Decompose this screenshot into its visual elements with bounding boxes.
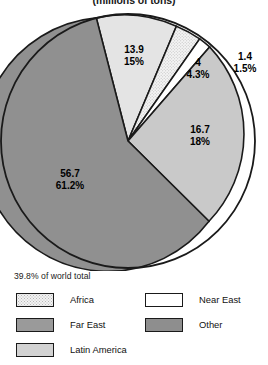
legend-label-latin-america: Latin America	[70, 344, 127, 355]
near-east-swatch-icon	[145, 293, 183, 307]
chart-title: (millions of tons)	[0, 0, 268, 7]
legend-label-other: Other	[199, 319, 222, 330]
slice-label-13-9: 13.9 15%	[107, 44, 161, 67]
slice-label-56-7: 56.7 61.2%	[43, 168, 97, 191]
chart-legend: 39.8% of world total Africa Far East Lat…	[0, 268, 268, 365]
legend-item-africa[interactable]: Africa	[16, 287, 127, 312]
legend-label-near-east: Near East	[199, 294, 241, 305]
latin-america-swatch-icon	[16, 343, 54, 357]
slice-label-16-7: 16.7 18%	[177, 124, 223, 147]
legend-column-left: Africa Far East Latin America	[16, 287, 127, 362]
legend-item-other[interactable]: Other	[145, 312, 241, 337]
far-east-swatch-icon	[16, 318, 54, 332]
legend-item-far-east[interactable]: Far East	[16, 312, 127, 337]
africa-swatch-icon	[16, 293, 54, 307]
legend-column-right: Near East Other	[145, 287, 241, 337]
legend-label-africa: Africa	[70, 294, 94, 305]
legend-item-latin-america[interactable]: Latin America	[16, 337, 127, 362]
legend-label-far-east: Far East	[70, 319, 105, 330]
world-total-note: 39.8% of world total	[14, 271, 90, 281]
slice-label-1-4: 1.4 1.5%	[224, 51, 266, 74]
legend-item-near-east[interactable]: Near East	[145, 287, 241, 312]
other-swatch-icon	[145, 318, 183, 332]
pie-chart: 13.9 15% 4 4.3% 1.4 1.5% 16.7 18% 56.7 6…	[0, 13, 268, 271]
slice-label-4: 4 4.3%	[178, 57, 218, 80]
